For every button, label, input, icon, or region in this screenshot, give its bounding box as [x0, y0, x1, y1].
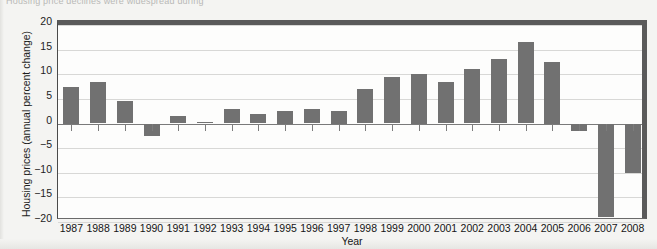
- x-tick-mark: [339, 124, 340, 131]
- bar: [411, 74, 427, 123]
- gridline: [58, 50, 642, 51]
- x-tick-label: 2008: [616, 222, 650, 234]
- x-tick-mark: [499, 124, 500, 131]
- bar: [384, 77, 400, 124]
- bar: [63, 87, 79, 124]
- x-tick-mark: [285, 124, 286, 131]
- y-tick-label: −20: [26, 212, 52, 224]
- bar: [438, 82, 454, 124]
- bar: [518, 42, 534, 123]
- x-tick-mark: [526, 124, 527, 131]
- plot-frame: [57, 20, 647, 219]
- bar: [491, 59, 507, 123]
- y-tick-label: 0: [26, 114, 52, 126]
- bar: [464, 69, 480, 123]
- x-tick-mark: [178, 124, 179, 131]
- x-tick-mark: [125, 124, 126, 131]
- bar: [544, 62, 560, 124]
- y-tick-label: 10: [26, 64, 52, 76]
- bar: [277, 111, 293, 123]
- y-tick-label: −15: [26, 187, 52, 199]
- y-tick-label: −10: [26, 163, 52, 175]
- x-tick-mark: [446, 124, 447, 131]
- y-tick-label: 20: [26, 15, 52, 27]
- gridline: [58, 25, 642, 26]
- x-tick-mark: [205, 124, 206, 131]
- gridline: [58, 197, 642, 198]
- y-tick-label: 5: [26, 89, 52, 101]
- x-tick-mark: [392, 124, 393, 131]
- x-tick-mark: [98, 124, 99, 131]
- x-tick-mark: [552, 124, 553, 131]
- y-tick-label: 15: [26, 40, 52, 52]
- bar: [304, 109, 320, 124]
- x-tick-mark: [365, 124, 366, 131]
- x-tick-mark: [152, 124, 153, 131]
- y-tick-label: −5: [26, 138, 52, 150]
- x-tick-mark: [71, 124, 72, 131]
- bar: [598, 124, 614, 218]
- chart-page: Housing price declines were widespread d…: [0, 0, 657, 249]
- plot-area: [58, 25, 642, 218]
- y-axis-tick-labels: 20151050−5−10−15−20: [22, 20, 52, 219]
- bar: [224, 109, 240, 124]
- x-axis-tick-labels: 1987198819891990199119921993199419951996…: [57, 222, 647, 236]
- scan-edge-left: [0, 0, 4, 249]
- bar: [117, 101, 133, 123]
- bar: [357, 89, 373, 123]
- x-tick-mark: [579, 124, 580, 131]
- x-tick-mark: [258, 124, 259, 131]
- x-tick-mark: [232, 124, 233, 131]
- bar: [331, 111, 347, 123]
- gridline: [58, 148, 642, 149]
- x-tick-mark: [312, 124, 313, 131]
- bar: [250, 114, 266, 124]
- bar: [170, 116, 186, 123]
- x-tick-mark: [419, 124, 420, 131]
- x-axis-label: Year: [57, 235, 647, 247]
- x-tick-mark: [472, 124, 473, 131]
- gridline: [58, 173, 642, 174]
- bar: [90, 82, 106, 124]
- top-caption-text: Housing price declines were widespread d…: [6, 0, 426, 8]
- x-tick-mark: [633, 124, 634, 131]
- bar: [625, 124, 641, 173]
- x-tick-mark: [606, 124, 607, 131]
